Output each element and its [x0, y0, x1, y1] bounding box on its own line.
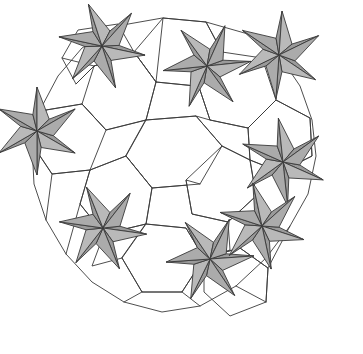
tiling-canvas	[0, 0, 363, 354]
tiling-figure	[0, 0, 363, 354]
